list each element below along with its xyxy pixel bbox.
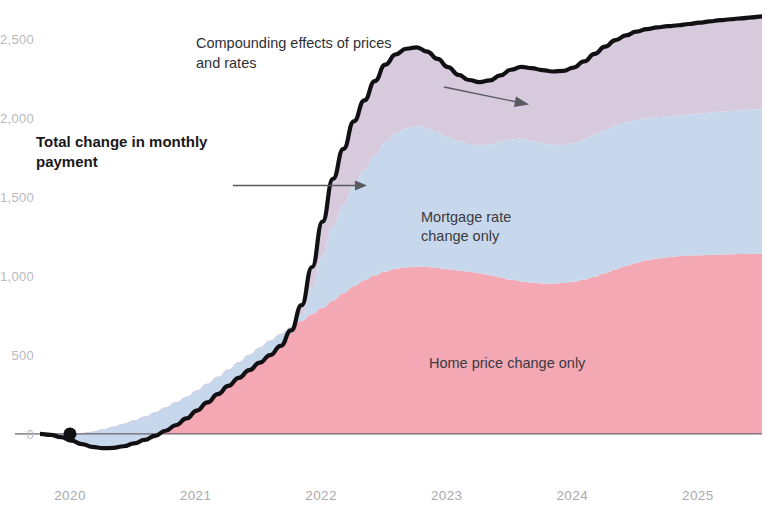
x-axis-tick-label: 2023 (431, 488, 463, 503)
y-axis-tick-label: 2,000 (0, 111, 34, 126)
y-axis-tick-label: 0 (26, 427, 34, 442)
x-axis-tick-label: 2024 (556, 488, 588, 503)
x-axis-labels: 202020212022202320242025 (54, 488, 713, 503)
area-home-price-change (40, 253, 762, 434)
x-axis-tick-label: 2022 (305, 488, 337, 503)
compounding-annotation: Compounding effects of pricesand rates (196, 35, 392, 71)
y-axis-tick-label: 1,500 (0, 190, 34, 205)
y-axis-tick-label: 1,000 (0, 269, 34, 284)
y-axis-tick-label: 500 (11, 348, 34, 363)
x-axis-tick-label: 2020 (54, 488, 86, 503)
y-axis-tick-label: $2,500 (0, 32, 34, 47)
chart-annotations: Compounding effects of pricesand ratesTo… (36, 35, 392, 170)
stacked-area-chart: 05001,0001,5002,000$2,500 20202021202220… (0, 0, 766, 508)
total-annotation: Total change in monthlypayment (36, 133, 208, 170)
chart-container: 05001,0001,5002,000$2,500 20202021202220… (0, 0, 766, 508)
x-axis-tick-label: 2021 (180, 488, 212, 503)
y-axis-labels: 05001,0001,5002,000$2,500 (0, 32, 34, 441)
origin-marker-dot (64, 427, 77, 440)
home-price-label: Home price change only (429, 355, 586, 371)
x-axis-tick-label: 2025 (682, 488, 714, 503)
plot-areas (40, 16, 762, 448)
